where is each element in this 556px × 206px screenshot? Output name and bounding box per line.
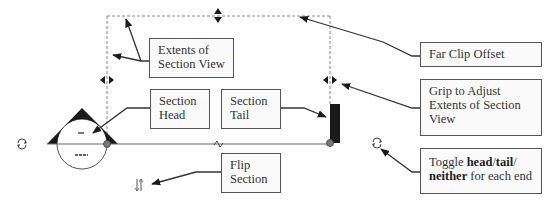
callout-extents-line1: Extents of: [158, 43, 225, 57]
cycle-arrows-icon[interactable]: [372, 138, 382, 148]
callout-grip-line3: View: [429, 112, 533, 126]
callout-flip-section: Flip Section: [221, 153, 281, 193]
callout-toggle-line2: neither for each end: [429, 169, 533, 183]
callout-extents-line2: Section View: [158, 57, 225, 71]
callout-flip-line2: Section: [230, 172, 272, 186]
break-line-icon[interactable]: [214, 141, 223, 147]
callout-tail-line2: Tail: [230, 108, 272, 122]
extents-boundary: [107, 16, 330, 142]
head-end-grip-icon[interactable]: [104, 141, 111, 148]
callout-section-head: Section Head: [150, 89, 210, 129]
callout-toggle-ends: Toggle head/tail/ neither for each end: [420, 148, 542, 194]
flip-arrows-icon[interactable]: [135, 179, 143, 191]
toggle-suffix: for each end: [467, 169, 532, 183]
section-tail-symbol[interactable]: [330, 104, 340, 143]
tail-end-grip-icon[interactable]: [327, 140, 334, 147]
callout-tail-line1: Section: [230, 94, 272, 108]
toggle-tail: tail: [496, 155, 513, 169]
toggle-head: head: [467, 155, 493, 169]
callout-far-clip-label: Far Clip Offset: [429, 47, 533, 61]
callout-head-line2: Head: [159, 108, 201, 122]
callout-grip-adjust: Grip to Adjust Extents of Section View: [420, 79, 542, 136]
callout-toggle-line1: Toggle head/tail/: [429, 155, 533, 169]
toggle-prefix: Toggle: [429, 155, 467, 169]
toggle-neither: neither: [429, 169, 467, 183]
callout-section-tail: Section Tail: [221, 89, 281, 129]
callout-grip-line2: Extents of Section: [429, 98, 533, 112]
callout-far-clip-offset: Far Clip Offset: [420, 42, 542, 67]
callout-flip-line1: Flip: [230, 158, 272, 172]
callout-grip-line1: Grip to Adjust: [429, 84, 533, 98]
toggle-sep2: /: [513, 155, 516, 169]
callout-extents: Extents of Section View: [149, 38, 234, 78]
cycle-arrows-icon[interactable]: [17, 139, 27, 149]
callout-head-line1: Section: [159, 94, 201, 108]
